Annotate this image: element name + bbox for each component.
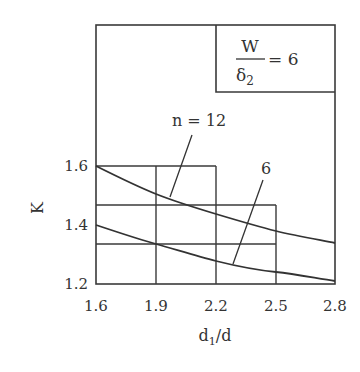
x-tick-1.9: 1.9 (144, 297, 168, 315)
legend: W δ2 = 6 (216, 25, 335, 92)
x-tick-2.2: 2.2 (204, 297, 228, 315)
y-tick-1.4: 1.4 (64, 216, 88, 234)
y-axis: 1.6 1.4 1.2 K (28, 157, 88, 293)
x-tick-2.5: 2.5 (264, 297, 288, 315)
y-tick-1.6: 1.6 (64, 157, 88, 175)
curve-label-n-6: 6 (261, 159, 271, 178)
y-axis-label: K (28, 201, 47, 214)
x-tick-2.8: 2.8 (323, 297, 347, 315)
chart: W δ2 = 6 n = 12 6 1.6 1.4 1.2 K 1.6 1.9 … (0, 0, 360, 372)
x-axis: 1.6 1.9 2.2 2.5 2.8 d1/d (84, 297, 347, 348)
legend-equals: = 6 (268, 49, 298, 69)
y-tick-1.2: 1.2 (64, 275, 88, 293)
grid (96, 166, 276, 284)
leader-n-6 (233, 180, 263, 264)
legend-denominator: δ2 (236, 65, 254, 88)
legend-numerator: W (241, 36, 259, 56)
curve-label-n-12: n = 12 (172, 111, 226, 130)
x-axis-label: d1/d (199, 326, 232, 348)
x-tick-1.6: 1.6 (84, 297, 108, 315)
